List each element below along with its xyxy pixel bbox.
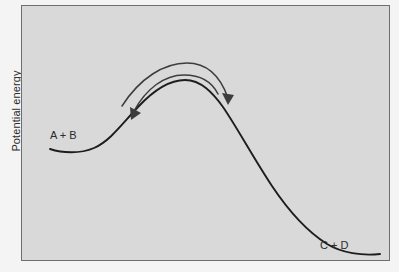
potential-energy-diagram: Potential energy A + B C + D [0, 0, 399, 272]
reactants-label: A + B [50, 129, 77, 141]
plot-frame: A + B C + D [21, 5, 390, 261]
energy-profile-svg [22, 6, 389, 260]
products-label: C + D [320, 239, 348, 251]
energy-profile-curve [50, 80, 380, 255]
forward-reaction-arrowhead-icon [222, 93, 234, 105]
